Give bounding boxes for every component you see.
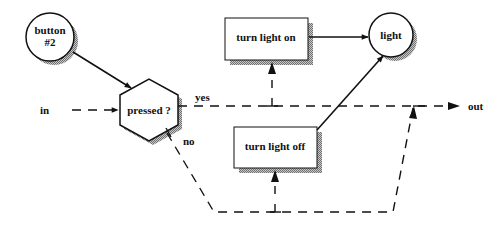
edge-turn-off-to-light bbox=[317, 56, 383, 130]
no-label: no bbox=[183, 135, 195, 147]
no-merge-arrowhead bbox=[409, 106, 417, 119]
pressed-label: pressed ? bbox=[127, 104, 171, 116]
shadows bbox=[30, 17, 417, 173]
in-label: in bbox=[40, 104, 49, 116]
out-arrowhead bbox=[448, 102, 460, 110]
turn-light-off-label: turn light off bbox=[245, 140, 306, 152]
button-2-label-line2: #2 bbox=[45, 36, 57, 48]
turn-light-off-node: turn light off bbox=[234, 127, 317, 168]
turn-light-on-node: turn light on bbox=[225, 18, 308, 60]
flow-diagram: button #2 light turn light on turn light… bbox=[0, 0, 503, 228]
button-2-label-line1: button bbox=[34, 24, 65, 36]
edge-button-to-pressed bbox=[73, 52, 131, 88]
yes-label: yes bbox=[195, 91, 210, 103]
turn-light-on-label: turn light on bbox=[236, 31, 295, 43]
light-label: light bbox=[380, 29, 402, 41]
button-2-node: button #2 bbox=[26, 13, 74, 61]
out-label: out bbox=[468, 100, 484, 112]
light-node: light bbox=[369, 13, 413, 57]
